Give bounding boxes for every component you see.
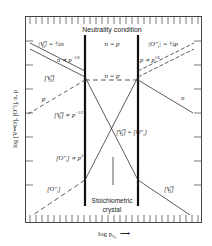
bottom-ticks — [30, 215, 198, 222]
line-p-left — [28, 80, 85, 114]
label-oi-half-p: |O″i| = ½p — [148, 40, 178, 49]
label-vo-eq-oi: [V••O] = [O″i] — [116, 127, 147, 137]
label-vo-prop: [V••O] ∝ p−1/2 — [54, 110, 83, 120]
top-ticks — [30, 17, 198, 24]
label-vo-half-n: |V••O| = ½n — [38, 39, 64, 49]
label-vo-left: [V••O] — [44, 73, 55, 83]
label-crystal: crystal — [103, 206, 122, 214]
x-axis-label: log pO₂⟶ — [98, 230, 130, 239]
y-axis-label: log [V••O], [O″i], n, p — [11, 90, 19, 148]
label-stoichiometric: Stoichiometric — [92, 197, 134, 204]
label-vo-right: [V••O] — [164, 184, 174, 194]
label-oi-prop: [O″i] ∝ p1/2 — [56, 153, 86, 163]
label-oi-left: [O″i] — [47, 185, 61, 194]
right-ticks — [194, 41, 201, 185]
line-n-right — [138, 80, 193, 113]
label-n-prop: n ∝ p−1/6 — [57, 55, 80, 63]
line-p-right-b — [138, 49, 194, 77]
line-n-left-b — [30, 49, 85, 77]
title-neutrality: Neutrality condition — [82, 26, 142, 34]
label-p-left: p — [41, 95, 46, 103]
label-n-right: n — [181, 94, 185, 102]
label-n-eq-p-mid: n = p — [104, 72, 120, 80]
defect-diagram: Neutrality condition |V••O| = ½n n = p |… — [0, 0, 212, 246]
label-n-eq-p-top: n = p — [104, 40, 120, 48]
